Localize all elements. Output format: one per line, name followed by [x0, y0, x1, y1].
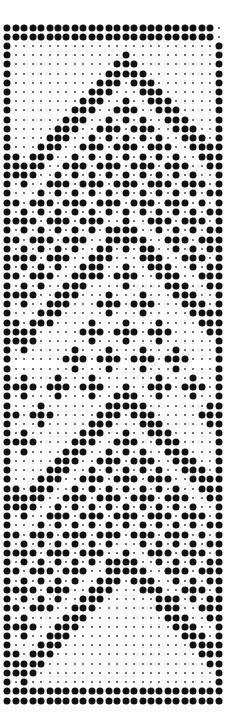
dot-filled: [38, 33, 45, 40]
dot-empty: [116, 54, 118, 56]
dot-filled: [12, 236, 19, 243]
dot-filled: [88, 172, 95, 179]
dot-empty: [184, 672, 186, 674]
dot-filled: [71, 577, 78, 584]
dot-filled: [139, 457, 146, 464]
dot-filled: [21, 264, 28, 271]
dot-empty: [167, 561, 169, 563]
dot-empty: [201, 405, 203, 407]
dot-empty: [57, 358, 59, 360]
dot-filled: [215, 513, 222, 520]
dot-empty: [209, 82, 211, 84]
dot-filled: [38, 540, 45, 547]
dot-filled: [46, 550, 53, 557]
dot-empty: [49, 294, 51, 296]
dot-filled: [139, 540, 146, 547]
dot-empty: [142, 663, 144, 665]
dot-empty: [175, 478, 177, 480]
dot-empty: [184, 192, 186, 194]
dot-empty: [150, 54, 152, 56]
dot-empty: [65, 377, 67, 379]
dot-filled: [12, 531, 19, 538]
dot-filled: [88, 430, 95, 437]
dot-filled: [215, 310, 222, 317]
dot-empty: [201, 580, 203, 582]
dot-empty: [116, 285, 118, 287]
dot-filled: [97, 476, 104, 483]
dot-filled: [38, 476, 45, 483]
dot-filled: [105, 135, 112, 142]
dot-empty: [49, 165, 51, 167]
dot-empty: [91, 54, 93, 56]
dot-filled: [215, 374, 222, 381]
dot-empty: [65, 488, 67, 490]
dot-filled: [131, 531, 138, 538]
dot-filled: [71, 365, 78, 372]
dot-empty: [175, 137, 177, 139]
dot-empty: [184, 174, 186, 176]
dot-empty: [49, 358, 51, 360]
dot-filled: [12, 485, 19, 492]
dot-empty: [209, 174, 211, 176]
dot-empty: [209, 377, 211, 379]
dot-filled: [139, 89, 146, 96]
dot-empty: [158, 119, 160, 121]
dot-empty: [49, 211, 51, 213]
dot-filled: [46, 633, 53, 640]
dot-filled: [46, 476, 53, 483]
dot-empty: [150, 137, 152, 139]
dot-filled: [122, 559, 129, 566]
dot-filled: [55, 577, 62, 584]
dot-empty: [175, 340, 177, 342]
dot-empty: [82, 349, 84, 351]
dot-empty: [108, 220, 110, 222]
dot-filled: [198, 697, 205, 704]
dot-filled: [80, 236, 87, 243]
dot-empty: [49, 681, 51, 683]
dot-filled: [12, 337, 19, 344]
dot-filled: [164, 144, 171, 151]
dot-filled: [80, 550, 87, 557]
dot-empty: [15, 128, 17, 130]
dot-filled: [173, 485, 180, 492]
dot-empty: [125, 497, 127, 499]
dot-filled: [21, 227, 28, 234]
dot-empty: [23, 91, 25, 93]
dot-filled: [80, 448, 87, 455]
dot-filled: [12, 503, 19, 510]
dot-filled: [55, 384, 62, 391]
dot-empty: [57, 414, 59, 416]
dot-empty: [184, 312, 186, 314]
dot-filled: [198, 199, 205, 206]
dot-empty: [74, 672, 76, 674]
dot-filled: [29, 651, 36, 658]
dot-empty: [192, 165, 194, 167]
dot-filled: [215, 669, 222, 676]
dot-empty: [74, 653, 76, 655]
dot-filled: [4, 153, 11, 160]
dot-empty: [99, 617, 101, 619]
dot-filled: [190, 135, 197, 142]
dot-empty: [192, 100, 194, 102]
dot-empty: [32, 580, 34, 582]
dot-empty: [15, 423, 17, 425]
dot-empty: [32, 146, 34, 148]
dot-filled: [181, 162, 188, 169]
dot-empty: [167, 229, 169, 231]
dot-filled: [190, 181, 197, 188]
dot-empty: [192, 82, 194, 84]
dot-empty: [91, 451, 93, 453]
dot-filled: [207, 697, 214, 704]
dot-filled: [164, 531, 171, 538]
dot-filled: [147, 697, 154, 704]
dot-filled: [12, 651, 19, 658]
dot-filled: [97, 550, 104, 557]
dot-filled: [207, 144, 214, 151]
dot-filled: [80, 596, 87, 603]
dot-empty: [201, 100, 203, 102]
dot-filled: [173, 559, 180, 566]
dot-empty: [142, 322, 144, 324]
dot-empty: [99, 672, 101, 674]
dot-empty: [201, 349, 203, 351]
dot-filled: [215, 319, 222, 326]
